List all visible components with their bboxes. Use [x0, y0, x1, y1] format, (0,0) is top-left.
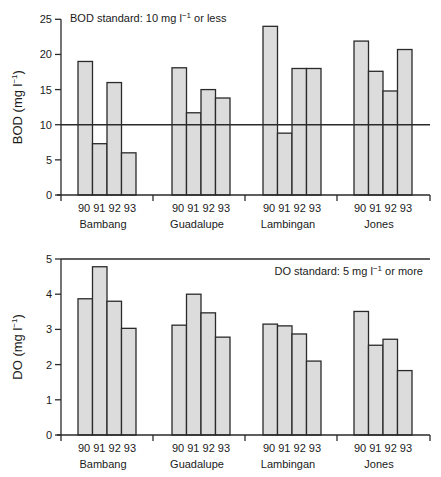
- y-tick-label: 4: [46, 288, 52, 300]
- standard-annotation: DO standard: 5 mg l−1 or more: [274, 264, 423, 277]
- bar-group-lambingan: 90 91 92 93Lambingan: [261, 324, 321, 470]
- bar-guadalupe-92: [201, 313, 216, 435]
- group-label: Lambingan: [261, 458, 315, 470]
- bar-guadalupe-90: [172, 325, 187, 435]
- bar-bambang-90: [78, 61, 93, 195]
- bod-do-bar-charts: 90 91 92 93Bambang90 91 92 93Guadalupe90…: [0, 0, 441, 477]
- bar-group-bambang: 90 91 92 93Bambang: [78, 267, 136, 470]
- y-tick-label: 15: [40, 84, 52, 96]
- bar-jones-92: [383, 339, 398, 435]
- y-tick-label: 20: [40, 48, 52, 60]
- bar-group-guadalupe: 90 91 92 93Guadalupe: [170, 294, 230, 470]
- bar-lambingan-92: [292, 68, 307, 195]
- y-axis-label: BOD (mg l−1): [10, 70, 25, 144]
- bar-guadalupe-92: [201, 90, 216, 195]
- year-labels: 90 91 92 93: [354, 202, 412, 214]
- y-tick-label: 2: [46, 359, 52, 371]
- bar-group-jones: 90 91 92 93Jones: [354, 311, 412, 470]
- year-labels: 90 91 92 93: [354, 442, 412, 454]
- y-tick-label: 0: [46, 189, 52, 201]
- bar-group-jones: 90 91 92 93Jones: [354, 41, 412, 230]
- bar-lambingan-93: [307, 361, 322, 435]
- bar-bambang-91: [93, 144, 108, 195]
- bar-lambingan-93: [307, 68, 322, 195]
- bar-lambingan-91: [278, 133, 293, 195]
- chart-figure: 90 91 92 93Bambang90 91 92 93Guadalupe90…: [0, 0, 441, 477]
- year-labels: 90 91 92 93: [263, 442, 321, 454]
- chart-panel-top: 90 91 92 93Bambang90 91 92 93Guadalupe90…: [10, 11, 430, 230]
- year-labels: 90 91 92 93: [78, 202, 136, 214]
- group-label: Lambingan: [261, 218, 315, 230]
- bar-bambang-92: [107, 301, 122, 435]
- y-tick-label: 3: [46, 323, 52, 335]
- bar-bambang-91: [93, 267, 108, 435]
- bar-jones-91: [369, 71, 384, 195]
- group-label: Bambang: [79, 458, 126, 470]
- bar-jones-92: [383, 91, 398, 195]
- bar-bambang-93: [122, 328, 137, 435]
- y-tick-label: 5: [46, 154, 52, 166]
- bar-lambingan-90: [263, 324, 278, 435]
- standard-annotation: BOD standard: 10 mg l−1 or less: [70, 11, 227, 24]
- bar-lambingan-90: [263, 26, 278, 195]
- group-label: Jones: [364, 458, 394, 470]
- bar-jones-90: [354, 311, 369, 435]
- bar-jones-90: [354, 41, 369, 195]
- bar-group-guadalupe: 90 91 92 93Guadalupe: [170, 68, 230, 230]
- bar-jones-93: [398, 50, 413, 195]
- y-axis-label: DO (mg l−1): [10, 314, 25, 379]
- bar-bambang-92: [107, 83, 122, 195]
- bar-guadalupe-93: [216, 98, 231, 195]
- bar-lambingan-92: [292, 334, 307, 435]
- bar-guadalupe-93: [216, 337, 231, 435]
- y-tick-label: 10: [40, 119, 52, 131]
- bar-jones-91: [369, 345, 384, 435]
- group-label: Guadalupe: [170, 458, 224, 470]
- bar-guadalupe-90: [172, 68, 187, 195]
- bar-group-bambang: 90 91 92 93Bambang: [78, 61, 136, 230]
- year-labels: 90 91 92 93: [263, 202, 321, 214]
- group-label: Bambang: [79, 218, 126, 230]
- bar-group-lambingan: 90 91 92 93Lambingan: [261, 26, 321, 230]
- group-label: Jones: [364, 218, 394, 230]
- bar-lambingan-91: [278, 326, 293, 435]
- y-tick-label: 0: [46, 429, 52, 441]
- bar-guadalupe-91: [187, 294, 202, 435]
- year-labels: 90 91 92 93: [78, 442, 136, 454]
- year-labels: 90 91 92 93: [172, 442, 230, 454]
- group-label: Guadalupe: [170, 218, 224, 230]
- bar-jones-93: [398, 371, 413, 435]
- year-labels: 90 91 92 93: [172, 202, 230, 214]
- y-tick-label: 5: [46, 253, 52, 265]
- chart-panel-bottom: 90 91 92 93Bambang90 91 92 93Guadalupe90…: [10, 253, 430, 470]
- y-tick-label: 1: [46, 394, 52, 406]
- bar-bambang-90: [78, 299, 93, 435]
- y-tick-label: 25: [40, 13, 52, 25]
- bar-bambang-93: [122, 153, 137, 195]
